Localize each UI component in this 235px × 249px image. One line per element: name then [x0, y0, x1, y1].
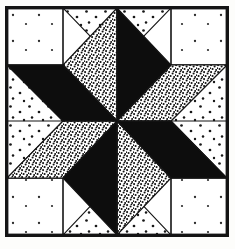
corner-square-top-left — [7, 8, 63, 65]
quilt-page — [0, 0, 235, 249]
quilt-block-frame — [5, 6, 229, 237]
corner-square-bottom-left — [7, 178, 63, 235]
corner-square-bottom-right — [171, 178, 227, 235]
corner-square-top-right — [171, 8, 227, 65]
quilt-block-canvas — [7, 8, 227, 235]
